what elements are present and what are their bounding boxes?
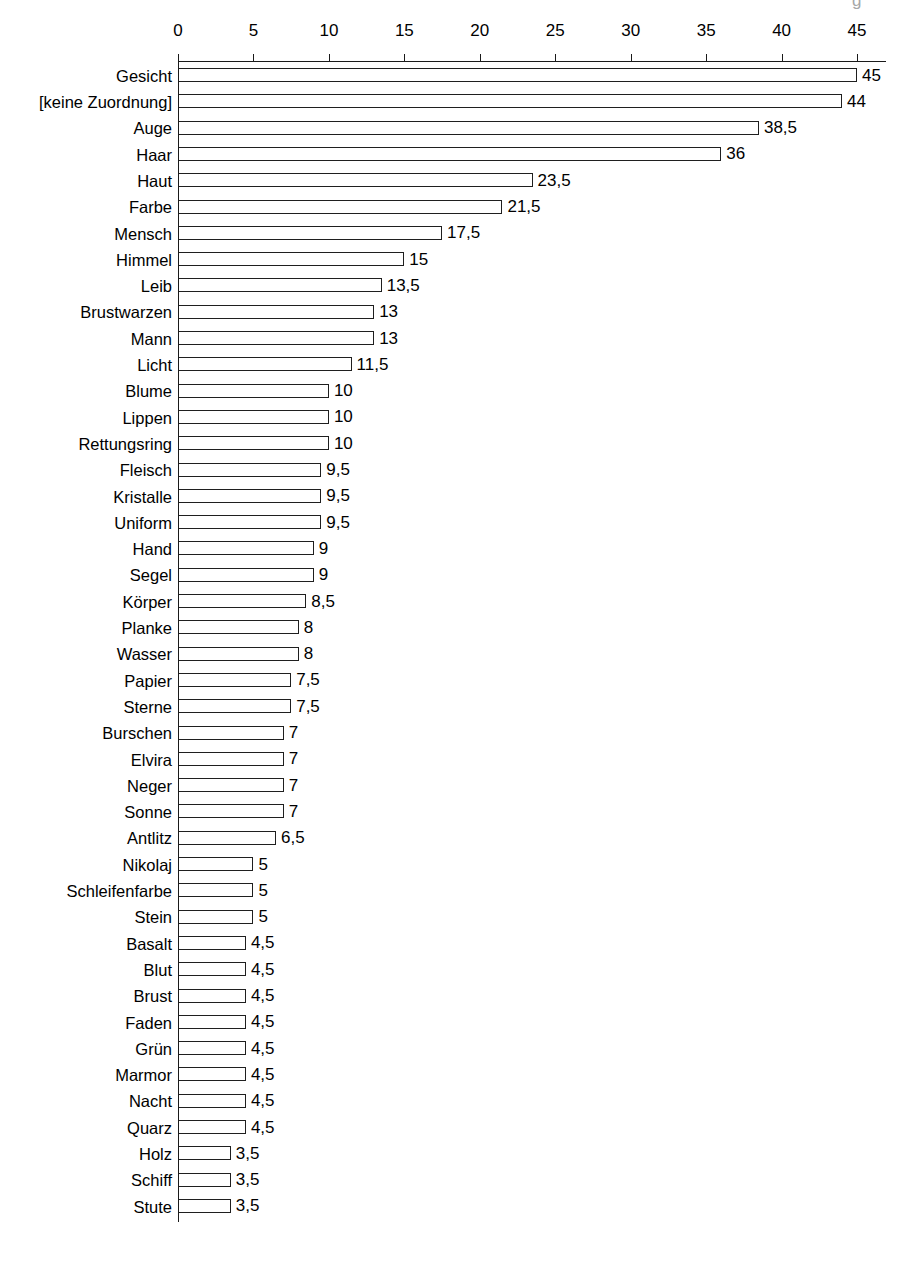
bar-value-label: 3,5	[236, 1145, 260, 1162]
bar-chart: g 051015202530354045 Gesicht45[keine Zuo…	[0, 0, 912, 1275]
bar[interactable]	[178, 673, 291, 687]
bar[interactable]	[178, 910, 253, 924]
bar-row: Blut4,5	[0, 956, 912, 982]
bar[interactable]	[178, 620, 299, 634]
bar-row: Brust4,5	[0, 983, 912, 1009]
bar[interactable]	[178, 1120, 246, 1134]
bar-value-label: 13	[379, 330, 398, 347]
category-label: Schleifenfarbe	[0, 883, 172, 900]
bar[interactable]	[178, 226, 442, 240]
bar-value-label: 10	[334, 382, 353, 399]
bar-value-label: 10	[334, 435, 353, 452]
x-axis: 051015202530354045	[0, 0, 912, 62]
category-label: Wasser	[0, 646, 172, 663]
bar-row: Leib13,5	[0, 272, 912, 298]
category-label: Haar	[0, 147, 172, 164]
bar[interactable]	[178, 68, 857, 82]
bar-value-label: 7	[289, 803, 298, 820]
bar[interactable]	[178, 463, 321, 477]
bar[interactable]	[178, 778, 284, 792]
category-label: Licht	[0, 357, 172, 374]
category-label: Hand	[0, 541, 172, 558]
bar[interactable]	[178, 857, 253, 871]
bar-row: Haar36	[0, 141, 912, 167]
x-axis-tick-label: 35	[686, 22, 726, 39]
bar[interactable]	[178, 1146, 231, 1160]
bar[interactable]	[178, 515, 321, 529]
bar[interactable]	[178, 1041, 246, 1055]
bar[interactable]	[178, 568, 314, 582]
bar-value-label: 36	[726, 145, 745, 162]
bar-value-label: 17,5	[447, 224, 480, 241]
bar[interactable]	[178, 989, 246, 1003]
category-label: Nacht	[0, 1093, 172, 1110]
category-label: Neger	[0, 778, 172, 795]
bar-row: Quarz4,5	[0, 1114, 912, 1140]
bar[interactable]	[178, 357, 352, 371]
bar[interactable]	[178, 384, 329, 398]
bar-value-label: 4,5	[251, 961, 275, 978]
category-label: Farbe	[0, 199, 172, 216]
bar-row: Antlitz6,5	[0, 825, 912, 851]
category-label: Antlitz	[0, 830, 172, 847]
bar[interactable]	[178, 278, 382, 292]
bar[interactable]	[178, 1173, 231, 1187]
bar[interactable]	[178, 200, 502, 214]
bar[interactable]	[178, 1199, 231, 1213]
bar[interactable]	[178, 804, 284, 818]
bar[interactable]	[178, 489, 321, 503]
bar[interactable]	[178, 94, 842, 108]
category-label: Holz	[0, 1146, 172, 1163]
bar-value-label: 8	[304, 619, 313, 636]
bar[interactable]	[178, 647, 299, 661]
bar[interactable]	[178, 883, 253, 897]
category-label: Mann	[0, 331, 172, 348]
bar[interactable]	[178, 252, 404, 266]
bar-value-label: 7,5	[296, 698, 320, 715]
bar-row: Haut23,5	[0, 167, 912, 193]
bar[interactable]	[178, 594, 306, 608]
bar-value-label: 9,5	[326, 487, 350, 504]
bar[interactable]	[178, 121, 759, 135]
bar-value-label: 4,5	[251, 1092, 275, 1109]
bar-row: Wasser8	[0, 641, 912, 667]
bar-row: Farbe21,5	[0, 194, 912, 220]
bar-row: Faden4,5	[0, 1009, 912, 1035]
bar-value-label: 38,5	[764, 119, 797, 136]
category-label: Grün	[0, 1041, 172, 1058]
bar[interactable]	[178, 173, 533, 187]
category-label: Burschen	[0, 725, 172, 742]
bar-row: Papier7,5	[0, 667, 912, 693]
category-label: [keine Zuordnung]	[0, 94, 172, 111]
bar[interactable]	[178, 936, 246, 950]
bar[interactable]	[178, 331, 374, 345]
bar[interactable]	[178, 831, 276, 845]
category-label: Planke	[0, 620, 172, 637]
category-label: Stute	[0, 1199, 172, 1216]
category-label: Sterne	[0, 699, 172, 716]
category-label: Stein	[0, 909, 172, 926]
bar-row: Holz3,5	[0, 1140, 912, 1166]
bar-row: Stute3,5	[0, 1193, 912, 1219]
bar[interactable]	[178, 1094, 246, 1108]
bar-row: Himmel15	[0, 246, 912, 272]
category-label: Brustwarzen	[0, 304, 172, 321]
bar-row: Kristalle9,5	[0, 483, 912, 509]
bar[interactable]	[178, 541, 314, 555]
bar[interactable]	[178, 410, 329, 424]
bar[interactable]	[178, 699, 291, 713]
bar[interactable]	[178, 1067, 246, 1081]
bar[interactable]	[178, 436, 329, 450]
x-axis-tick-label: 15	[384, 22, 424, 39]
bar-row: Segel9	[0, 562, 912, 588]
bar[interactable]	[178, 1015, 246, 1029]
bar[interactable]	[178, 147, 721, 161]
bar-value-label: 11,5	[357, 356, 389, 373]
bar[interactable]	[178, 752, 284, 766]
bar[interactable]	[178, 305, 374, 319]
bar[interactable]	[178, 962, 246, 976]
bar[interactable]	[178, 726, 284, 740]
x-axis-tick-mark	[178, 54, 179, 61]
bar-value-label: 10	[334, 408, 353, 425]
bar-row: Burschen7	[0, 720, 912, 746]
